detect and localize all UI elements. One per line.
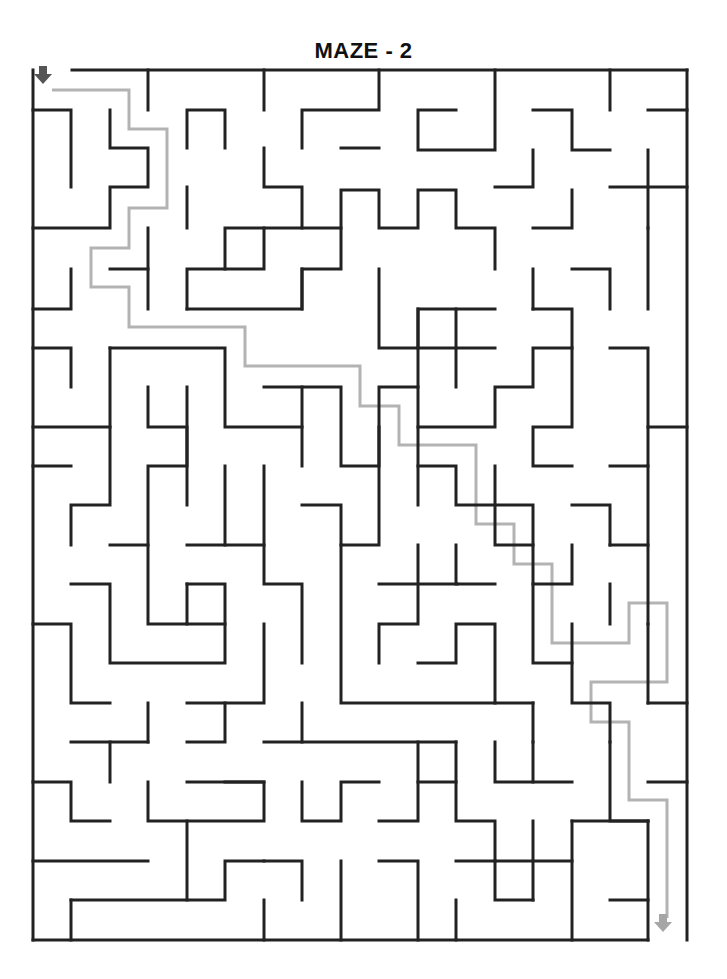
wall-segment <box>33 269 71 309</box>
wall-segment <box>341 190 495 269</box>
wall-segment <box>148 387 187 624</box>
wall-segment <box>533 348 572 466</box>
wall-segment <box>379 269 495 348</box>
maze-walls <box>33 70 687 940</box>
wall-segment <box>379 545 418 663</box>
wall-segment <box>533 190 572 228</box>
wall-segment <box>302 70 379 148</box>
wall-segment <box>495 150 533 187</box>
wall-segment <box>33 110 71 187</box>
end-arrow-icon <box>654 914 672 932</box>
arrow-shape <box>34 66 52 84</box>
wall-segment <box>33 782 110 821</box>
wall-segment <box>187 703 225 742</box>
wall-segment <box>148 387 187 505</box>
wall-segment <box>379 861 418 940</box>
wall-segment <box>418 70 495 150</box>
wall-segment <box>71 348 110 545</box>
wall-segment <box>71 861 264 900</box>
wall-segment <box>341 545 533 703</box>
wall-segment <box>533 110 610 150</box>
wall-segment <box>264 861 302 900</box>
wall-segment <box>610 348 687 427</box>
wall-segment <box>572 269 610 309</box>
start-arrow-icon <box>34 66 52 84</box>
arrow-shape <box>654 914 672 932</box>
wall-segment <box>148 782 264 821</box>
wall-segment <box>187 110 225 148</box>
wall-segment <box>33 348 71 387</box>
wall-segment <box>302 782 379 821</box>
maze-board[interactable] <box>0 0 727 979</box>
wall-segment <box>379 742 418 821</box>
wall-segment <box>572 505 610 545</box>
wall-segment <box>456 545 495 584</box>
wall-segment <box>264 466 302 663</box>
wall-segment <box>610 427 648 466</box>
wall-segment <box>418 624 495 703</box>
wall-segment <box>33 624 110 703</box>
